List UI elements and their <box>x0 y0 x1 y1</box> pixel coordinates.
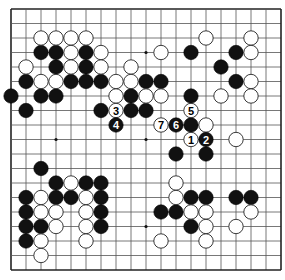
black-stone <box>34 45 48 59</box>
white-stone <box>124 74 138 88</box>
white-stone <box>34 74 48 88</box>
numbered-white-stone: 7 <box>154 118 168 132</box>
white-stone <box>79 234 93 248</box>
move-number: 1 <box>188 134 194 146</box>
white-stone <box>169 176 183 190</box>
white-stone <box>79 219 93 233</box>
black-stone <box>64 190 78 204</box>
black-stone <box>184 45 198 59</box>
star-point <box>144 138 147 141</box>
white-stone <box>79 190 93 204</box>
move-number: 6 <box>173 119 179 131</box>
black-stone <box>94 190 108 204</box>
star-point <box>144 51 147 54</box>
black-stone <box>49 190 63 204</box>
black-stone <box>184 219 198 233</box>
black-stone <box>19 190 33 204</box>
black-stone <box>94 219 108 233</box>
white-stone <box>34 248 48 262</box>
black-stone <box>64 74 78 88</box>
white-stone <box>64 31 78 45</box>
white-stone <box>244 89 258 103</box>
move-number: 2 <box>203 134 209 146</box>
star-point <box>54 138 57 141</box>
black-stone <box>184 190 198 204</box>
numbered-white-stone: 3 <box>109 103 123 117</box>
white-stone <box>49 74 63 88</box>
black-stone <box>34 89 48 103</box>
white-stone <box>244 31 258 45</box>
black-stone <box>214 60 228 74</box>
white-stone <box>244 74 258 88</box>
white-stone <box>199 118 213 132</box>
white-stone <box>79 31 93 45</box>
white-stone <box>79 205 93 219</box>
black-stone <box>124 103 138 117</box>
white-stone <box>94 45 108 59</box>
move-number: 5 <box>188 105 194 117</box>
black-stone <box>49 89 63 103</box>
white-stone <box>244 205 258 219</box>
black-stone <box>139 74 153 88</box>
black-stone <box>154 74 168 88</box>
numbered-white-stone: 1 <box>184 132 198 146</box>
black-stone <box>184 118 198 132</box>
black-stone <box>49 176 63 190</box>
white-stone <box>154 45 168 59</box>
go-board: 1234567 <box>0 0 285 280</box>
white-stone <box>109 74 123 88</box>
black-stone <box>34 161 48 175</box>
white-stone <box>49 31 63 45</box>
numbered-black-stone: 2 <box>199 132 213 146</box>
white-stone <box>214 89 228 103</box>
black-stone <box>49 45 63 59</box>
black-stone <box>199 190 213 204</box>
white-stone <box>34 31 48 45</box>
black-stone <box>184 89 198 103</box>
black-stone <box>169 205 183 219</box>
black-stone <box>244 190 258 204</box>
white-stone <box>199 31 213 45</box>
move-number: 7 <box>158 119 164 131</box>
black-stone <box>19 74 33 88</box>
white-stone <box>64 60 78 74</box>
black-stone <box>94 74 108 88</box>
black-stone <box>94 103 108 117</box>
white-stone <box>199 219 213 233</box>
move-number: 4 <box>113 119 120 131</box>
black-stone <box>124 89 138 103</box>
black-stone <box>94 205 108 219</box>
black-stone <box>79 60 93 74</box>
black-stone <box>19 234 33 248</box>
white-stone <box>229 219 243 233</box>
black-stone <box>229 74 243 88</box>
black-stone <box>229 190 243 204</box>
white-stone <box>49 205 63 219</box>
black-stone <box>139 103 153 117</box>
black-stone <box>34 219 48 233</box>
white-stone <box>124 60 138 74</box>
star-point <box>144 225 147 228</box>
black-stone <box>79 74 93 88</box>
move-number: 3 <box>113 105 119 117</box>
numbered-black-stone: 6 <box>169 118 183 132</box>
white-stone <box>184 205 198 219</box>
white-stone <box>49 219 63 233</box>
black-stone <box>94 176 108 190</box>
black-stone <box>49 60 63 74</box>
white-stone <box>34 190 48 204</box>
white-stone <box>94 60 108 74</box>
white-stone <box>64 176 78 190</box>
white-stone <box>34 205 48 219</box>
black-stone <box>199 147 213 161</box>
black-stone <box>4 89 18 103</box>
white-stone <box>199 205 213 219</box>
white-stone <box>244 45 258 59</box>
white-stone <box>109 89 123 103</box>
black-stone <box>79 176 93 190</box>
white-stone <box>169 190 183 204</box>
numbered-white-stone: 5 <box>184 103 198 117</box>
white-stone <box>154 89 168 103</box>
white-stone <box>19 60 33 74</box>
white-stone <box>34 234 48 248</box>
